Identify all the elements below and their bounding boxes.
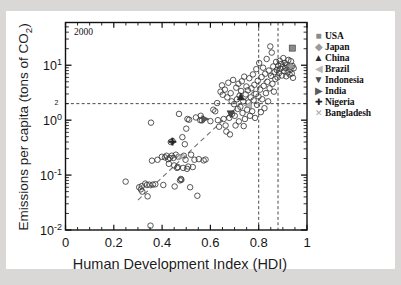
- filled-square-icon: ■: [313, 31, 324, 41]
- data-point-countries: [252, 115, 258, 121]
- data-point-countries: [230, 77, 236, 83]
- data-point-countries: [260, 65, 266, 71]
- legend-item-bangladesh[interactable]: ✕Bangladesh: [313, 108, 371, 119]
- legend-item-nigeria[interactable]: ✚Nigeria: [313, 97, 371, 108]
- data-point-countries: [262, 105, 268, 111]
- x-tick-label-1: 0.2: [94, 235, 134, 250]
- data-point-countries: [149, 158, 155, 164]
- y-tick-exponent-0: 1: [57, 57, 62, 67]
- x-axis-title-text: Human Development Index (HDI): [73, 256, 287, 272]
- data-point-countries: [180, 134, 186, 140]
- data-point-countries: [148, 223, 154, 229]
- data-point-countries: [214, 100, 220, 106]
- data-point-countries: [262, 71, 268, 77]
- data-point-countries: [259, 74, 265, 80]
- data-point-countries: [145, 194, 151, 200]
- figure-root: 2000 Human Development Index (HDI) Emiss…: [0, 0, 401, 285]
- data-point-countries: [216, 124, 222, 130]
- data-point-countries: [260, 97, 266, 103]
- y-axis-title-subscript: 2: [23, 28, 34, 33]
- data-point-countries: [203, 157, 209, 163]
- year-annotation: 2000: [74, 27, 93, 37]
- y-tick-exponent-2: -1: [54, 167, 62, 177]
- data-point-countries: [268, 44, 274, 50]
- data-point-countries: [242, 116, 248, 122]
- y-tick-base-2: 10: [40, 169, 54, 183]
- x-axis-title: Human Development Index (HDI): [0, 256, 360, 272]
- data-point-countries: [271, 89, 277, 95]
- legend: ■USA◆Japan▲China◀Brazil▼Indonesia▶India✚…: [313, 30, 371, 119]
- y-tick-label-2: 10-1: [24, 167, 62, 183]
- y-tick-label-3: 10-2: [24, 222, 62, 238]
- x-tick-label-2: 0.4: [142, 235, 182, 250]
- legend-label-indonesia: Indonesia: [325, 75, 364, 85]
- data-points-group: [123, 44, 297, 229]
- y-tick-label-1: 100: [24, 112, 62, 128]
- data-point-countries: [182, 141, 188, 147]
- data-point-countries: [221, 116, 227, 122]
- legend-item-brazil[interactable]: ◀Brazil: [313, 63, 371, 74]
- filled-diamond-icon: ◆: [313, 42, 324, 52]
- data-point-countries: [188, 152, 194, 158]
- legend-item-japan[interactable]: ◆Japan: [313, 41, 371, 52]
- data-point-countries: [254, 66, 260, 72]
- data-point-countries: [161, 182, 167, 188]
- data-point-countries: [263, 90, 269, 96]
- y-reference-label-2: 2: [55, 99, 59, 106]
- legend-item-china[interactable]: ▲China: [313, 52, 371, 63]
- data-point-countries: [172, 184, 178, 190]
- legend-item-india[interactable]: ▶India: [313, 85, 371, 96]
- data-point-countries: [241, 123, 247, 129]
- data-point-countries: [148, 120, 154, 126]
- data-point-countries: [236, 119, 242, 125]
- data-point-countries: [256, 60, 262, 66]
- y-tick-base-0: 10: [43, 59, 57, 73]
- data-point-countries: [215, 117, 221, 123]
- y-tick-base-1: 10: [43, 114, 57, 128]
- legend-label-bangladesh: Bangladesh: [325, 108, 371, 118]
- data-point-countries: [224, 129, 230, 135]
- filled-triangle-down-icon: ▼: [313, 75, 324, 85]
- y-axis-title-post: ): [16, 23, 31, 28]
- data-point-countries: [227, 132, 233, 138]
- data-point-countries: [222, 87, 228, 93]
- data-point-usa: [289, 45, 295, 51]
- data-point-countries: [249, 109, 255, 115]
- y-tick-exponent-3: -2: [54, 222, 62, 232]
- data-point-countries: [250, 72, 256, 78]
- legend-label-india: India: [325, 86, 346, 96]
- data-point-countries: [266, 68, 272, 74]
- filled-triangle-up-icon: ▲: [313, 53, 324, 63]
- data-point-countries: [176, 111, 182, 117]
- x-tick-label-5: 1: [287, 235, 327, 250]
- y-tick-exponent-1: 0: [57, 112, 62, 122]
- x-tick-label-4: 0.8: [239, 235, 279, 250]
- data-point-countries: [269, 50, 275, 56]
- plus-cross-icon: ✚: [313, 98, 324, 107]
- legend-label-china: China: [325, 53, 349, 63]
- data-point-countries: [228, 90, 234, 96]
- data-point-countries: [264, 56, 270, 62]
- data-point-countries: [184, 126, 190, 132]
- legend-label-usa: USA: [325, 31, 344, 41]
- data-point-countries: [223, 123, 229, 129]
- data-point-countries: [180, 165, 186, 171]
- legend-item-indonesia[interactable]: ▼Indonesia: [313, 74, 371, 85]
- data-point-countries: [195, 193, 201, 199]
- legend-label-nigeria: Nigeria: [325, 97, 354, 107]
- filled-triangle-left-icon: ◀: [313, 64, 324, 74]
- legend-item-usa[interactable]: ■USA: [313, 30, 371, 41]
- y-tick-base-3: 10: [40, 224, 54, 238]
- x-tick-label-3: 0.6: [190, 235, 230, 250]
- legend-label-japan: Japan: [325, 42, 349, 52]
- cross-x-icon: ✕: [313, 109, 324, 118]
- y-tick-label-0: 101: [24, 57, 62, 73]
- data-point-countries: [187, 185, 193, 191]
- filled-triangle-right-icon: ▶: [313, 86, 324, 96]
- legend-label-brazil: Brazil: [325, 64, 349, 74]
- data-point-countries: [123, 179, 129, 185]
